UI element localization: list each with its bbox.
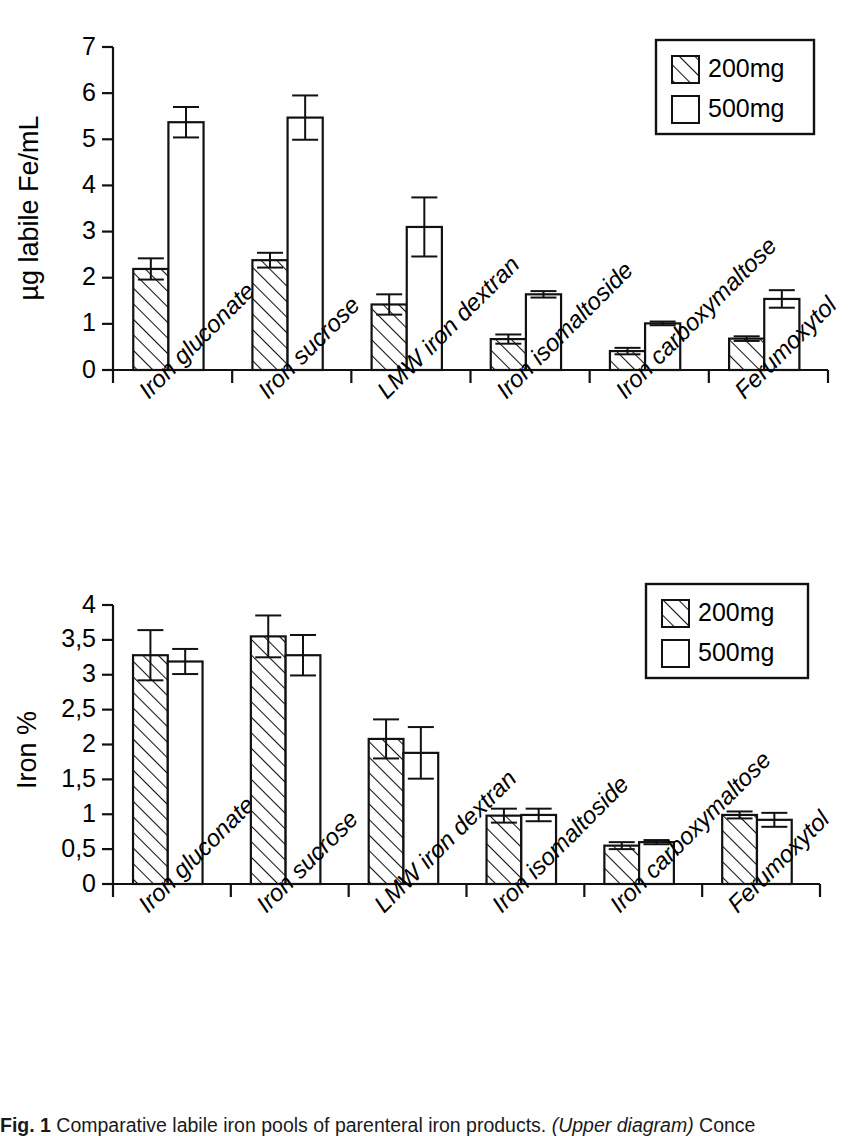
y-tick-label: 4 — [82, 170, 96, 198]
y-axis-title: Iron % — [12, 711, 42, 789]
caption-emphasis: (Upper diagram) — [552, 1114, 694, 1136]
bar-200mg — [369, 739, 404, 884]
y-axis-title: µg labile Fe/mL — [14, 115, 44, 300]
y-tick-label: 5 — [82, 124, 96, 152]
lower-diagram-panel: 00,511,522,533,54Iron %Iron gluconateIro… — [0, 560, 858, 1080]
y-tick-label: 4 — [82, 590, 96, 618]
caption-label: Fig. 1 — [0, 1114, 51, 1136]
y-tick-label: 3 — [82, 659, 96, 687]
upper-bar-chart: 01234567µg labile Fe/mLIron gluconateIro… — [0, 0, 858, 560]
y-tick-label: 3,5 — [61, 624, 96, 652]
legend-label: 500mg — [698, 638, 774, 666]
y-tick-label: 3 — [82, 216, 96, 244]
bar-200mg — [251, 636, 286, 884]
y-tick-label: 6 — [82, 78, 96, 106]
bar-200mg — [133, 655, 168, 884]
legend-swatch-200mg — [672, 56, 699, 83]
legend-label: 200mg — [708, 54, 784, 82]
y-tick-label: 0 — [82, 869, 96, 897]
legend-swatch-500mg — [672, 96, 699, 123]
legend-label: 200mg — [698, 598, 774, 626]
legend-swatch-200mg — [662, 600, 689, 627]
y-tick-label: 0,5 — [61, 834, 96, 862]
y-tick-label: 0 — [82, 355, 96, 383]
y-tick-label: 1 — [82, 308, 96, 336]
y-tick-label: 1,5 — [61, 764, 96, 792]
legend-label: 500mg — [708, 94, 784, 122]
y-tick-label: 2 — [82, 262, 96, 290]
chart-legend: 200mg500mg — [646, 584, 808, 678]
lower-bar-chart: 00,511,522,533,54Iron %Iron gluconateIro… — [0, 560, 858, 1080]
caption-body: Comparative labile iron pools of parente… — [56, 1114, 755, 1136]
upper-diagram-panel: 01234567µg labile Fe/mLIron gluconateIro… — [0, 0, 858, 560]
y-tick-label: 2 — [82, 729, 96, 757]
figure-container: 01234567µg labile Fe/mLIron gluconateIro… — [0, 0, 858, 1136]
chart-legend: 200mg500mg — [656, 40, 814, 134]
y-tick-label: 1 — [82, 799, 96, 827]
y-tick-label: 7 — [82, 32, 96, 60]
y-tick-label: 2,5 — [61, 694, 96, 722]
legend-swatch-500mg — [662, 640, 689, 667]
figure-caption: Fig. 1 Comparative labile iron pools of … — [0, 1112, 858, 1136]
